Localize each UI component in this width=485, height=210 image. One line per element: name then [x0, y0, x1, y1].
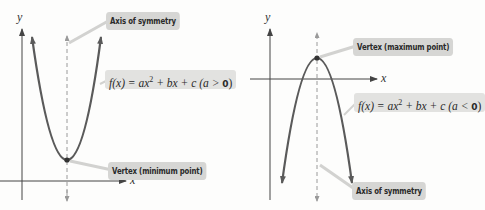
axis-of-symmetry-callout: Axis of symmetry [106, 12, 180, 30]
vertex-maximum-callout: Vertex (maximum point) [353, 38, 453, 56]
leader-line [69, 20, 110, 43]
parabola-curve [32, 37, 67, 160]
vertex-point [64, 157, 69, 162]
y-axis-label: y [265, 10, 270, 25]
formula-suffix: ) [229, 77, 233, 89]
leader-line [320, 46, 356, 57]
axis-of-symmetry-callout: Axis of symmetry [352, 182, 426, 200]
vertex-point [314, 55, 319, 60]
parabola-curve [317, 58, 352, 183]
quadratic-formula-label: f(x) = ax2 + bx + c (a > 0) [105, 70, 236, 89]
y-axis-label: y [17, 10, 22, 25]
parabola-curve [67, 37, 101, 160]
parabola-curve [282, 58, 317, 183]
formula-middle: + bx + c (a > [153, 77, 222, 89]
quadratic-formula-label: f(x) = ax2 + bx + c (a < 0) [354, 93, 485, 112]
formula-prefix: f(x) = ax [358, 100, 398, 112]
vertex-minimum-callout: Vertex (minimum point) [108, 162, 207, 180]
formula-middle: + bx + c (a < [402, 100, 471, 112]
x-axis-label: x [381, 71, 386, 86]
leader-line [70, 161, 112, 170]
formula-suffix: ) [478, 100, 482, 112]
formula-prefix: f(x) = ax [109, 77, 149, 89]
